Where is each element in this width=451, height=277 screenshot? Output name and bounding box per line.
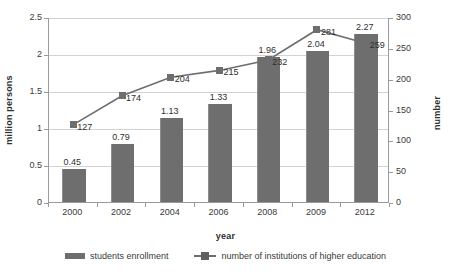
line-series [49,18,390,203]
x-axis-tick-label: 2000 [48,208,96,217]
y-axis-right-tick-label: 0 [396,198,422,207]
line-value-label: 127 [77,123,111,132]
x-axis-tick-label: 2002 [97,208,145,217]
y-axis-right-tick-label: 150 [396,106,422,115]
bar-value-label: 1.33 [199,93,239,102]
legend-item-students-enrollment[interactable]: students enrollment [65,251,169,261]
chart-legend: students enrollment number of institutio… [0,251,451,261]
y-axis-left-tick-label: 1 [8,124,42,133]
y-axis-left-tick-label: 0.5 [8,161,42,170]
y-axis-right-tick-label: 200 [396,75,422,84]
x-axis-tick-mark [389,203,390,207]
line-marker[interactable] [167,74,174,81]
bar-swatch-icon [65,253,85,259]
line-marker[interactable] [313,26,320,33]
y-axis-right-tick-label: 50 [396,167,422,176]
x-axis-title: year [0,231,451,241]
y-axis-left-tick-label: 2.5 [8,13,42,22]
x-axis-tick-mark [194,203,195,207]
x-axis-tick-label: 2012 [341,208,389,217]
bar-value-label: 1.96 [247,46,287,55]
x-axis-tick-mark [48,203,49,207]
x-axis-tick-label: 2004 [146,208,194,217]
plot-area [48,18,389,203]
y-axis-right-tick-label: 100 [396,136,422,145]
x-axis-tick-label: 2008 [243,208,291,217]
bar-value-label: 0.79 [101,133,141,142]
line-value-label: 232 [272,58,306,67]
x-axis-tick-label: 2006 [195,208,243,217]
line-value-label: 174 [126,94,160,103]
line-value-label: 281 [321,28,355,37]
line-marker[interactable] [362,40,369,47]
y-axis-left-tick-label: 2 [8,50,42,59]
y-axis-right-tick-label: 300 [396,13,422,22]
x-axis-tick-mark [145,203,146,207]
line-value-label: 259 [370,41,404,50]
line-marker-swatch-icon [194,252,216,260]
line-marker[interactable] [265,56,272,63]
bar-value-label: 2.04 [296,40,336,49]
x-axis-tick-mark [292,203,293,207]
line-marker[interactable] [216,67,223,74]
x-axis-tick-mark [243,203,244,207]
line-value-label: 204 [175,75,209,84]
y-axis-left-tick-label: 1.5 [8,87,42,96]
bar-value-label: 1.13 [150,107,190,116]
y-axis-left-tick-label: 0 [8,198,42,207]
legend-label-institutions: number of institutions of higher educati… [221,251,386,261]
x-axis-tick-mark [97,203,98,207]
y-axis-right-title: number [432,73,442,153]
legend-label-students-enrollment: students enrollment [90,251,169,261]
x-axis-tick-mark [340,203,341,207]
chart-container: million persons number year 00.511.522.5… [0,0,451,277]
line-value-label: 215 [224,68,258,77]
x-axis-tick-label: 2009 [292,208,340,217]
line-marker[interactable] [70,121,77,128]
line-marker[interactable] [119,92,126,99]
bar-value-label: 0.45 [52,158,92,167]
legend-item-institutions[interactable]: number of institutions of higher educati… [194,251,386,261]
y-axis-left-title: million persons [4,70,14,150]
